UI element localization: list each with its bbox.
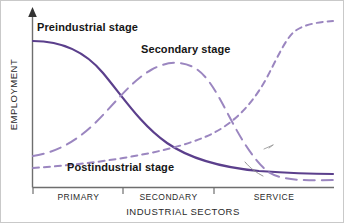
series-curve-preindustrial bbox=[33, 41, 333, 174]
y-axis-arrowhead bbox=[28, 7, 37, 17]
y-axis-title: EMPLOYMENT bbox=[8, 55, 19, 135]
x-axis-label-service: SERVICE bbox=[214, 192, 334, 202]
x-axis-label-secondary: SECONDARY bbox=[123, 192, 214, 202]
x-axis-label-primary: PRIMARY bbox=[34, 192, 123, 202]
series-label-postindustrial: Postindustrial stage bbox=[67, 161, 174, 173]
series-label-secondary: Secondary stage bbox=[141, 43, 231, 55]
x-axis-title: INDUSTRIAL SECTORS bbox=[32, 206, 334, 217]
chart-plot-area bbox=[1, 1, 344, 223]
stray-mark-upper bbox=[264, 145, 273, 149]
chart-figure: Preindustrial stage Secondary stage Post… bbox=[0, 0, 344, 223]
series-label-preindustrial: Preindustrial stage bbox=[37, 21, 138, 33]
